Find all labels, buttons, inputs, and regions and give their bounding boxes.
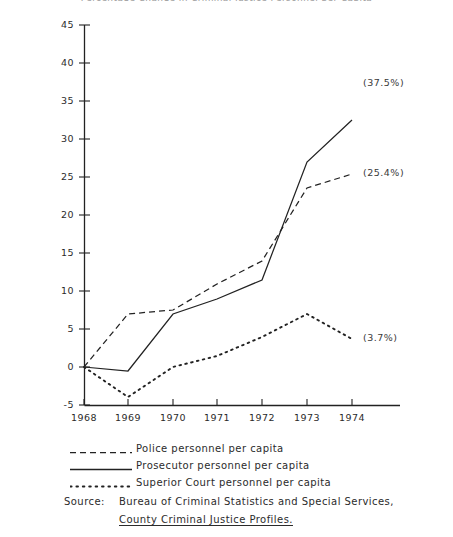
source-publication-title: County Criminal Justice Profiles. [119, 514, 293, 525]
x-tick-label: 1972 [240, 412, 284, 423]
y-tick-label: 40 [48, 57, 74, 68]
annotation-prosecutor-1974: (37.5%) [363, 77, 404, 88]
legend-label: Prosecutor personnel per capita [136, 460, 310, 471]
source-label: Source: [64, 496, 105, 507]
legend-label: Superior Court personnel per capita [136, 477, 331, 488]
y-tick-label: 5 [48, 323, 74, 334]
x-tick-label: 1971 [195, 412, 239, 423]
legend-swatch-dotted-icon [70, 485, 132, 487]
x-tick-label: 1970 [151, 412, 195, 423]
annotation-superior-court-1974: (3.7%) [363, 332, 398, 343]
x-tick-label: 1973 [285, 412, 329, 423]
x-tick-label: 1969 [106, 412, 150, 423]
y-tick-label: 30 [48, 133, 74, 144]
x-tick-label: 1974 [330, 412, 374, 423]
y-tick-label: 20 [48, 209, 74, 220]
y-tick-label: 10 [48, 285, 74, 296]
legend-item-police: Police personnel per capita [0, 443, 453, 460]
y-tick-label: 0 [48, 361, 74, 372]
y-tick-label: 15 [48, 247, 74, 258]
x-tick-marks [84, 399, 352, 405]
legend-item-prosecutor: Prosecutor personnel per capita [0, 460, 453, 477]
y-tick-label: 35 [48, 95, 74, 106]
legend: Police personnel per capita Prosecutor p… [0, 443, 453, 494]
source-text-line-1: Bureau of Criminal Statistics and Specia… [119, 496, 394, 507]
legend-item-superior-court: Superior Court personnel per capita [0, 477, 453, 494]
annotation-police-1974: (25.4%) [363, 167, 404, 178]
x-tick-label: 1968 [62, 412, 106, 423]
legend-swatch-dashed-icon [70, 451, 132, 453]
y-tick-label: 45 [48, 19, 74, 30]
series-line-superior-court [84, 314, 352, 397]
legend-label: Police personnel per capita [136, 443, 284, 454]
legend-swatch-solid-icon [70, 468, 132, 470]
plot-area: 45 40 35 30 25 20 15 10 5 0 -5 1968 1969… [0, 0, 453, 430]
series-line-police [84, 174, 352, 367]
y-tick-label: -5 [48, 399, 74, 410]
series-line-prosecutor [84, 120, 352, 371]
y-tick-label: 25 [48, 171, 74, 182]
